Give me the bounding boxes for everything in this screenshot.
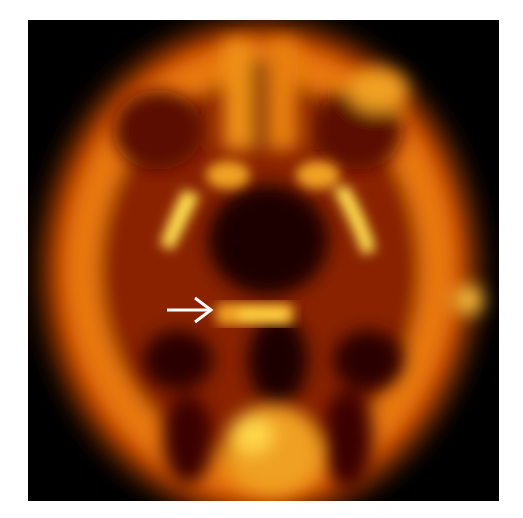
brain-slice	[28, 20, 499, 501]
pet-scan-image	[28, 20, 499, 501]
arrow-annotation	[165, 295, 215, 325]
arrow-right-icon	[165, 295, 215, 325]
